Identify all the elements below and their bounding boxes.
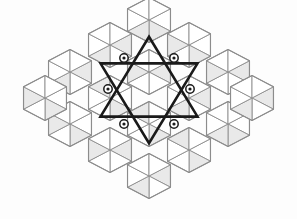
site-marker (104, 85, 112, 93)
site-marker (186, 85, 194, 93)
site-marker (120, 120, 128, 128)
site-marker (120, 54, 128, 62)
polyhedral-tiling-diagram (0, 0, 297, 219)
site-marker (170, 120, 178, 128)
site-marker (170, 54, 178, 62)
figure-container: Polyhedral tiling with hexagram overlay … (0, 0, 297, 219)
